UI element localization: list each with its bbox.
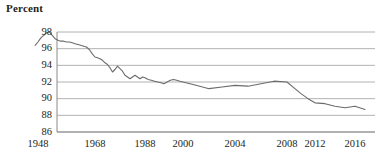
y-tick-label-94: 94 xyxy=(26,60,52,71)
x-tick-label-1948: 1948 xyxy=(18,139,58,150)
x-tick-label-2004: 2004 xyxy=(215,139,255,150)
percent-line-chart: Percent 98969492908886 19481968198820002… xyxy=(0,0,378,160)
x-tick-label-2000: 2000 xyxy=(163,139,203,150)
x-tick-label-2012: 2012 xyxy=(295,139,335,150)
x-tick-label-1968: 1968 xyxy=(75,139,115,150)
y-tick-label-86: 86 xyxy=(26,127,52,138)
y-tick-label-92: 92 xyxy=(26,77,52,88)
data-series-line xyxy=(35,32,365,110)
gridlines xyxy=(57,32,375,132)
y-tick-label-96: 96 xyxy=(26,43,52,54)
x-tick-label-2016: 2016 xyxy=(335,139,375,150)
plot-area xyxy=(0,0,378,160)
x-tick-label-1988: 1988 xyxy=(125,139,165,150)
y-tick-label-88: 88 xyxy=(26,110,52,121)
y-tick-label-98: 98 xyxy=(26,27,52,38)
y-tick-label-90: 90 xyxy=(26,93,52,104)
